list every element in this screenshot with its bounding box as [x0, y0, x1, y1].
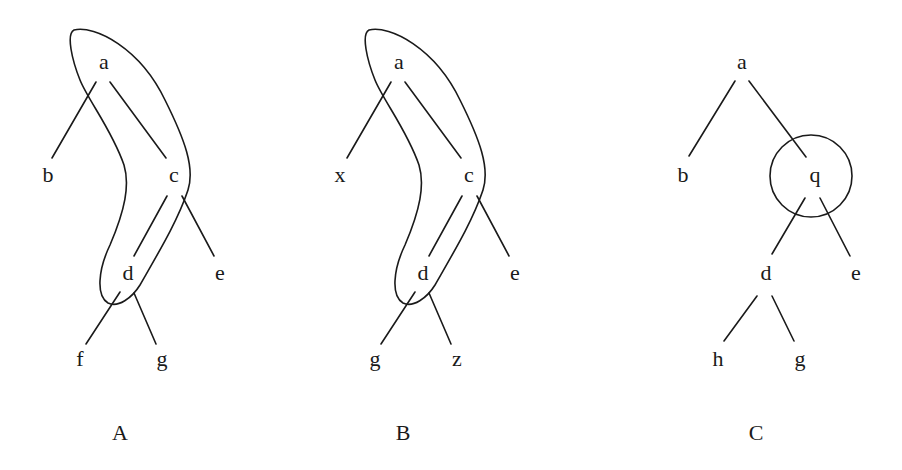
node-leaf-right: g: [795, 346, 806, 371]
node-left: b: [43, 162, 54, 187]
node-mid: c: [464, 162, 474, 187]
edge-d-g: [772, 296, 794, 341]
edge-a-b: [52, 82, 96, 158]
node-mid: q: [810, 162, 821, 187]
edge-d-g: [134, 293, 156, 344]
node-low: d: [761, 260, 772, 285]
node-left: x: [335, 162, 346, 187]
node-mid-right: e: [510, 260, 520, 285]
node-leaf-right: g: [157, 346, 168, 371]
node-mid-right: e: [851, 260, 861, 285]
node-low: d: [418, 260, 429, 285]
panel-label-c: C: [749, 420, 764, 445]
edge-d-h: [724, 296, 757, 341]
node-leaf-left: h: [713, 346, 724, 371]
node-low: d: [123, 260, 134, 285]
edge-q-e: [820, 198, 850, 256]
tree-panel-b: a x c e d g z B: [335, 29, 520, 445]
edge-c-e: [477, 196, 509, 256]
edge-d-z: [429, 293, 451, 344]
tree-panel-a: a b c e d f g A: [43, 29, 225, 445]
node-left: b: [678, 162, 689, 187]
edge-d-g: [381, 292, 415, 344]
edge-a-q: [749, 81, 806, 157]
edge-d-f: [86, 292, 120, 344]
node-mid-right: e: [215, 260, 225, 285]
node-leaf-left: g: [370, 346, 381, 371]
edge-a-b: [689, 81, 735, 156]
edge-a-c: [405, 82, 461, 158]
tree-figure: a b c e d f g A a x c e d g z B a b: [0, 0, 902, 470]
node-root: a: [99, 49, 109, 74]
node-mid: c: [169, 162, 179, 187]
tree-panel-c: a b q e d h g C: [678, 49, 861, 445]
node-leaf-right: z: [452, 346, 462, 371]
edge-c-e: [182, 196, 214, 256]
panel-label-a: A: [112, 420, 128, 445]
edge-a-c: [110, 82, 166, 158]
node-root: a: [394, 49, 404, 74]
node-root: a: [737, 49, 747, 74]
edge-a-x: [347, 82, 391, 158]
edge-q-d: [772, 198, 805, 254]
node-leaf-left: f: [76, 346, 84, 371]
panel-label-b: B: [396, 420, 411, 445]
